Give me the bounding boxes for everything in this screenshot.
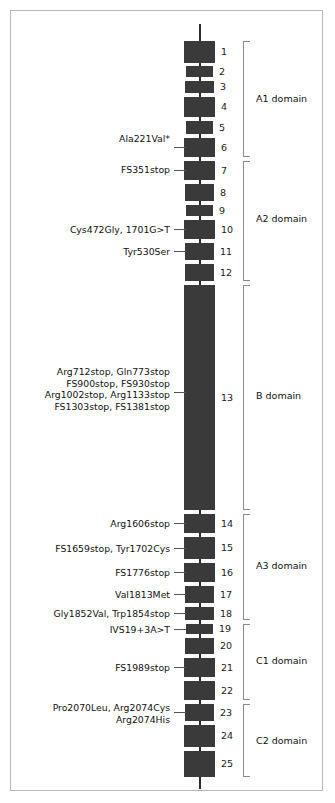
mutation-text: Arg2074His	[0, 714, 170, 726]
exon-number-24: 24	[221, 731, 233, 741]
domain-bracket-A2	[243, 161, 250, 281]
exon-number-6: 6	[221, 143, 227, 153]
exon-box-5[interactable]	[186, 121, 213, 134]
mutation-leader-line	[174, 629, 186, 630]
domain-bracket-A3	[243, 514, 250, 620]
exon-number-2: 2	[219, 67, 225, 77]
exon-box-11[interactable]	[185, 243, 214, 260]
exon-number-16: 16	[221, 568, 233, 578]
mutation-leader-line	[174, 712, 186, 713]
mutation-label-exon-17: Val1813Met	[0, 589, 170, 601]
exon-number-18: 18	[220, 609, 232, 619]
exon-number-11: 11	[220, 247, 232, 257]
mutation-leader-line	[174, 594, 186, 595]
mutation-leader-line	[174, 229, 186, 230]
domain-label-C1: C1 domain	[256, 656, 307, 666]
mutation-leader-line	[174, 667, 186, 668]
exon-number-12: 12	[220, 268, 232, 278]
mutation-text: Arg1002stop, Arg1133stop	[0, 389, 170, 401]
mutation-leader-line	[174, 147, 186, 148]
mutation-label-exon-6: Ala221Val*	[0, 133, 170, 145]
mutation-leader-line	[174, 572, 186, 573]
exon-box-22[interactable]	[184, 681, 215, 700]
exon-number-21: 21	[221, 663, 233, 673]
exon-number-5: 5	[219, 123, 225, 133]
exon-number-22: 22	[221, 686, 233, 696]
exon-number-19: 19	[219, 624, 231, 634]
mutation-text: IVS19+3A>T	[0, 624, 170, 636]
exon-box-21[interactable]	[184, 658, 215, 677]
exon-box-20[interactable]	[185, 638, 214, 654]
mutation-label-exon-7: FS351stop	[0, 164, 170, 176]
mutation-text: Val1813Met	[0, 589, 170, 601]
domain-label-A1: A1 domain	[256, 94, 307, 104]
exon-number-8: 8	[220, 188, 226, 198]
mutation-text: FS1776stop	[0, 567, 170, 579]
domain-bracket-B	[243, 285, 250, 510]
mutation-leader-line	[174, 613, 186, 614]
exon-box-6[interactable]	[184, 138, 215, 157]
mutation-text: FS1303stop, FS1381stop	[0, 401, 170, 413]
exon-box-2[interactable]	[186, 66, 213, 77]
mutation-label-exon-16: FS1776stop	[0, 567, 170, 579]
domain-bracket-C2	[243, 704, 250, 777]
exon-number-15: 15	[221, 543, 233, 553]
mutation-leader-line	[174, 251, 186, 252]
mutation-leader-line	[174, 170, 186, 171]
exon-number-23: 23	[220, 708, 232, 718]
mutation-text: FS351stop	[0, 164, 170, 176]
mutation-text: FS900stop, FS930stop	[0, 378, 170, 390]
mutation-text: FS1659stop, Tyr1702Cys	[0, 543, 170, 555]
domain-label-B: B domain	[256, 391, 301, 401]
exon-box-10[interactable]	[184, 220, 215, 239]
mutation-leader-line	[174, 392, 186, 393]
domain-label-A3: A3 domain	[256, 561, 307, 571]
exon-box-1[interactable]	[184, 41, 215, 63]
exon-box-17[interactable]	[185, 586, 214, 603]
exon-box-18[interactable]	[185, 607, 214, 620]
exon-box-12[interactable]	[185, 264, 214, 281]
exon-box-9[interactable]	[186, 205, 213, 216]
exon-box-23[interactable]	[185, 704, 214, 721]
exon-number-25: 25	[221, 759, 233, 769]
mutation-label-exon-11: Tyr530Ser	[0, 246, 170, 258]
exon-box-8[interactable]	[185, 184, 214, 201]
exon-box-24[interactable]	[184, 725, 215, 747]
exon-number-10: 10	[221, 225, 233, 235]
mutation-label-exon-15: FS1659stop, Tyr1702Cys	[0, 543, 170, 555]
mutation-text: Arg712stop, Gln773stop	[0, 366, 170, 378]
exon-box-4[interactable]	[184, 97, 215, 117]
exon-box-15[interactable]	[184, 537, 215, 559]
mutation-text: Pro2070Leu, Arg2074Cys	[0, 702, 170, 714]
exon-box-14[interactable]	[184, 514, 215, 533]
mutation-text: Cys472Gly, 1701G>T	[0, 224, 170, 236]
exon-number-3: 3	[220, 82, 226, 92]
exon-number-4: 4	[221, 102, 227, 112]
domain-label-C2: C2 domain	[256, 736, 307, 746]
domain-bracket-C1	[243, 624, 250, 700]
exon-number-13: 13	[221, 393, 233, 403]
exon-box-19[interactable]	[186, 624, 213, 634]
exon-box-16[interactable]	[184, 563, 215, 582]
mutation-label-exon-21: FS1989stop	[0, 662, 170, 674]
mutation-label-exon-18: Gly1852Val, Trp1854stop	[0, 608, 170, 620]
exon-box-13[interactable]	[184, 285, 215, 510]
mutation-text: FS1989stop	[0, 662, 170, 674]
mutation-label-exon-10: Cys472Gly, 1701G>T	[0, 224, 170, 236]
exon-box-7[interactable]	[184, 161, 215, 180]
domain-label-A2: A2 domain	[256, 214, 307, 224]
mutation-label-exon-23: Pro2070Leu, Arg2074CysArg2074His	[0, 702, 170, 725]
exon-box-25[interactable]	[184, 751, 215, 777]
exon-box-3[interactable]	[185, 81, 214, 93]
mutation-text: Arg1606stop	[0, 518, 170, 530]
mutation-text: Gly1852Val, Trp1854stop	[0, 608, 170, 620]
exon-number-17: 17	[220, 590, 232, 600]
mutation-leader-line	[174, 548, 186, 549]
mutation-text: Ala221Val*	[0, 133, 170, 145]
gene-diagram: 1234567891011121314151617181920212223242…	[0, 0, 335, 803]
exon-number-9: 9	[219, 206, 225, 216]
mutation-text: Tyr530Ser	[0, 246, 170, 258]
domain-bracket-A1	[243, 41, 250, 157]
mutation-leader-line	[174, 523, 186, 524]
mutation-label-exon-14: Arg1606stop	[0, 518, 170, 530]
